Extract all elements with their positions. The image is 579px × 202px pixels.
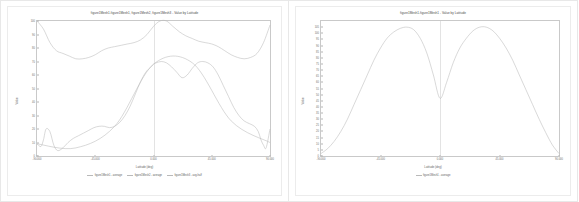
- right-y-tick-mark: [321, 106, 323, 107]
- left-chart-title: figure1Mesh1-figure1Mesh1, figure1Mesh2,…: [8, 11, 281, 15]
- right-y-axis-label: Value: [302, 98, 305, 105]
- legend-item-label: figure1Mesh2 - average: [135, 174, 162, 177]
- left-x-tick-mark: [37, 155, 38, 157]
- legend-item[interactable]: figure1Mesh1 - average: [87, 174, 122, 177]
- right-plot-area[interactable]: 0510152025303540455055606570758085909510…: [320, 20, 560, 157]
- right-y-tick-label: 75: [316, 62, 319, 65]
- right-series-paths: [321, 21, 559, 156]
- left-y-tick-mark: [37, 102, 39, 103]
- right-y-tick-label: 40: [316, 105, 319, 108]
- left-series-line: [37, 62, 270, 151]
- right-x-tick-mark: [440, 155, 441, 157]
- left-plot-area[interactable]: 0102030405060708090100-90.000-45.0000.00…: [36, 20, 271, 157]
- right-y-tick-mark: [321, 57, 323, 58]
- right-y-tick-label: 90: [316, 44, 319, 47]
- left-y-tick-label: 30: [32, 114, 35, 117]
- left-y-tick-mark: [37, 61, 39, 62]
- right-y-tick-mark: [321, 113, 323, 114]
- left-y-tick-label: 80: [32, 47, 35, 50]
- right-y-tick-label: 15: [316, 136, 319, 139]
- left-x-tick-label: 45.000: [208, 158, 216, 161]
- legend-swatch-icon: [87, 175, 93, 176]
- right-y-tick-label: 35: [316, 112, 319, 115]
- left-y-tick-label: 10: [32, 141, 35, 144]
- right-x-tick-label: -90.000: [317, 158, 326, 161]
- left-y-axis-label: Value: [16, 98, 19, 105]
- right-y-tick-mark: [321, 39, 323, 40]
- right-y-tick-mark: [321, 131, 323, 132]
- right-y-tick-label: 20: [316, 130, 319, 133]
- right-y-tick-label: 100: [315, 32, 319, 35]
- left-y-tick-mark: [37, 142, 39, 143]
- chart-screenshot: figure1Mesh1-figure1Mesh1, figure1Mesh2,…: [0, 0, 579, 202]
- right-y-tick-mark: [321, 51, 323, 52]
- legend-item-label: figure1Mesh1 - average: [95, 174, 122, 177]
- left-y-tick-mark: [37, 48, 39, 49]
- right-y-tick-mark: [321, 70, 323, 71]
- right-y-tick-label: 65: [316, 75, 319, 78]
- left-x-tick-label: -45.000: [91, 158, 100, 161]
- right-y-tick-label: 105: [315, 26, 319, 29]
- left-series-paths: [37, 21, 270, 156]
- left-y-tick-mark: [37, 75, 39, 76]
- right-x-tick-label: 0.000: [437, 158, 444, 161]
- left-y-tick-mark: [37, 115, 39, 116]
- left-figure: figure1Mesh1-figure1Mesh1, figure1Mesh2,…: [7, 6, 282, 196]
- left-x-tick-mark: [153, 155, 154, 157]
- right-y-tick-mark: [321, 76, 323, 77]
- right-y-tick-mark: [321, 143, 323, 144]
- left-x-tick-mark: [95, 155, 96, 157]
- right-y-tick-label: 5: [318, 148, 319, 151]
- right-series-line: [321, 27, 559, 154]
- left-x-tick-label: -90.000: [33, 158, 42, 161]
- right-y-tick-label: 60: [316, 81, 319, 84]
- right-y-tick-label: 80: [316, 56, 319, 59]
- left-x-tick-mark: [211, 155, 212, 157]
- right-y-tick-mark: [321, 45, 323, 46]
- left-y-tick-label: 70: [32, 60, 35, 63]
- right-x-tick-mark: [380, 155, 381, 157]
- left-chart-panel: figure1Mesh1-figure1Mesh1, figure1Mesh2,…: [0, 0, 289, 202]
- right-y-tick-mark: [321, 119, 323, 120]
- right-y-tick-label: 95: [316, 38, 319, 41]
- legend-item[interactable]: figure1Mesh2 - average: [127, 174, 162, 177]
- left-x-axis-label: Latitude (deg): [8, 166, 281, 169]
- legend-item[interactable]: figure1Mesh1 - average: [416, 174, 451, 177]
- right-y-tick-mark: [321, 88, 323, 89]
- right-y-tick-label: 25: [316, 124, 319, 127]
- left-x-tick-label: 90.000: [266, 158, 274, 161]
- left-y-tick-label: 60: [32, 74, 35, 77]
- right-y-tick-mark: [321, 94, 323, 95]
- right-x-tick-label: 45.000: [496, 158, 504, 161]
- legend-item-label: figure1Mesh1 - average: [423, 174, 450, 177]
- left-y-tick-label: 40: [32, 101, 35, 104]
- left-y-tick-label: 50: [32, 87, 35, 90]
- right-y-tick-mark: [321, 125, 323, 126]
- right-legend: figure1Mesh1 - average: [296, 174, 570, 177]
- right-figure: figure1Mesh1-figure1Mesh1 - Value by Lat…: [295, 6, 571, 196]
- legend-item-label: figure1Mesh3 - avg-half: [175, 174, 202, 177]
- right-x-tick-label: 90.000: [555, 158, 563, 161]
- legend-swatch-icon: [416, 175, 422, 176]
- legend-item[interactable]: figure1Mesh3 - avg-half: [167, 174, 202, 177]
- right-y-tick-mark: [321, 33, 323, 34]
- right-y-tick-mark: [321, 82, 323, 83]
- left-y-tick-mark: [37, 88, 39, 89]
- left-series-line: [37, 20, 270, 59]
- right-chart-panel: figure1Mesh1-figure1Mesh1 - Value by Lat…: [289, 0, 578, 202]
- right-y-tick-label: 50: [316, 93, 319, 96]
- left-y-tick-mark: [37, 21, 39, 22]
- left-y-tick-mark: [37, 129, 39, 130]
- right-y-tick-mark: [321, 27, 323, 28]
- right-x-tick-mark: [499, 155, 500, 157]
- right-chart-title: figure1Mesh1-figure1Mesh1 - Value by Lat…: [296, 11, 570, 15]
- right-y-tick-label: 85: [316, 50, 319, 53]
- right-x-tick-mark: [321, 155, 322, 157]
- right-y-tick-label: 70: [316, 69, 319, 72]
- right-y-tick-label: 30: [316, 118, 319, 121]
- legend-swatch-icon: [167, 175, 173, 176]
- left-y-tick-label: 20: [32, 128, 35, 131]
- left-legend: figure1Mesh1 - averagefigure1Mesh2 - ave…: [8, 174, 281, 177]
- right-y-tick-mark: [321, 137, 323, 138]
- right-y-tick-label: 10: [316, 142, 319, 145]
